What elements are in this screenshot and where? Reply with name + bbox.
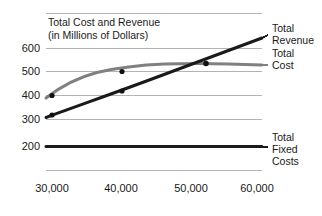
y-axis-tick-500: 500 <box>10 66 40 77</box>
legend-item-total-revenue: Total Revenue <box>272 22 314 46</box>
chart-container: Total Cost and Revenue (in Millions of D… <box>0 0 322 216</box>
legend-connectors <box>262 35 268 147</box>
y-axis-tick-400: 400 <box>10 90 40 101</box>
legend-total-cost-line2: Cost <box>272 59 294 71</box>
chart-title-line2: (in Millions of Dollars) <box>48 29 160 42</box>
legend-total-fixed-line2: Fixed <box>272 143 299 155</box>
legend-connector-revenue <box>262 35 268 38</box>
series-line-total-cost <box>46 63 262 98</box>
y-axis-tick-300: 300 <box>10 114 40 125</box>
legend-item-total-fixed-costs: Total Fixed Costs <box>272 131 299 168</box>
legend-total-revenue-line1: Total <box>272 22 314 34</box>
marker-total-revenue-40000 <box>119 88 124 93</box>
marker-breakeven-intersection <box>203 61 209 67</box>
marker-total-cost-40000 <box>119 69 124 74</box>
legend-total-fixed-line1: Total <box>272 131 299 143</box>
legend-item-total-cost: Total Cost <box>272 47 294 71</box>
legend-total-fixed-line3: Costs <box>272 155 299 167</box>
marker-total-revenue-30000 <box>49 112 54 117</box>
x-axis-tick-60000: 60,000 <box>229 183 285 194</box>
chart-title-line1: Total Cost and Revenue <box>48 16 160 29</box>
y-axis-tick-200: 200 <box>10 141 40 152</box>
legend-total-cost-line1: Total <box>272 47 294 59</box>
x-axis-tick-50000: 50,000 <box>163 183 219 194</box>
y-axis-tick-600: 600 <box>10 43 40 54</box>
legend-total-revenue-line2: Revenue <box>272 34 314 46</box>
chart-title: Total Cost and Revenue (in Millions of D… <box>48 16 160 41</box>
marker-total-cost-30000 <box>49 93 54 98</box>
x-axis-tick-30000: 30,000 <box>24 183 80 194</box>
x-axis-tick-40000: 40,000 <box>93 183 149 194</box>
